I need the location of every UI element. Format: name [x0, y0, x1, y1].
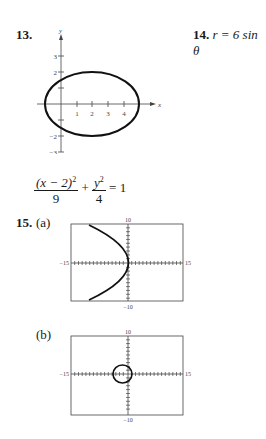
- plus-sign: +: [81, 180, 88, 195]
- parabola-curve: [89, 225, 129, 300]
- xmax-label: 15: [185, 371, 191, 377]
- problem-14-number: 14.: [193, 27, 209, 42]
- x-axis-label: x: [157, 101, 162, 109]
- part-a-label: (a): [36, 215, 50, 231]
- xmax-label: 15: [185, 260, 191, 266]
- exponent-1: 2: [72, 175, 76, 184]
- problem-15-number: 15.: [16, 215, 32, 231]
- ymax-label: 10: [125, 217, 131, 223]
- problem-15b-graph: 10 −10 −15 15: [50, 325, 200, 425]
- xmin-label: −15: [60, 260, 69, 266]
- fraction-denominator-2: 4: [92, 191, 106, 206]
- problem-13-equation: (x − 2)2 9 + y2 4 = 1: [34, 172, 126, 206]
- equation-rhs: = 1: [109, 180, 126, 195]
- y-tick-neg2: −2: [50, 133, 58, 141]
- problem-13-graph: x y 1 2 3 4 2 3 −2 −3: [30, 28, 170, 154]
- fraction-numerator-1: (x − 2): [36, 175, 72, 190]
- x-tick-3: 3: [106, 110, 110, 118]
- y-tick-2: 2: [54, 69, 58, 77]
- y-tick-3: 3: [54, 53, 58, 61]
- ymin-label: −10: [123, 417, 132, 423]
- x-tick-2: 2: [90, 110, 94, 118]
- problem-15a-graph: 10 −10 −15 15: [50, 212, 200, 312]
- xmin-label: −15: [60, 371, 69, 377]
- part-b-label: (b): [36, 327, 51, 343]
- fraction-denominator-1: 9: [34, 191, 78, 206]
- ymax-label: 10: [125, 329, 131, 335]
- exponent-2: 2: [100, 175, 104, 184]
- x-tick-1: 1: [75, 110, 79, 118]
- problem-14: 14. r = 6 sin θ: [193, 27, 266, 59]
- y-tick-neg3: −3: [50, 149, 58, 154]
- x-axis-arrow-icon: [150, 102, 156, 106]
- x-tick-4: 4: [122, 110, 126, 118]
- ymin-label: −10: [123, 304, 132, 310]
- y-axis-label: y: [58, 28, 63, 35]
